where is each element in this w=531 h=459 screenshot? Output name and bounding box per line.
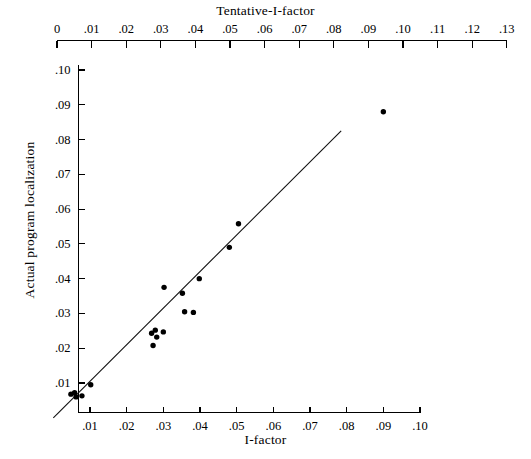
data-point bbox=[180, 291, 185, 296]
data-point bbox=[150, 343, 155, 348]
data-point bbox=[154, 334, 159, 339]
data-point bbox=[191, 310, 196, 315]
scatter-plot-figure: Tentative-I-factor I-factor Actual progr… bbox=[0, 0, 531, 459]
data-point bbox=[79, 393, 84, 398]
x-axis bbox=[79, 407, 421, 413]
data-point bbox=[161, 329, 166, 334]
plot-canvas bbox=[0, 0, 531, 459]
top-axis bbox=[57, 41, 507, 48]
data-point bbox=[161, 285, 166, 290]
data-point bbox=[182, 309, 187, 314]
data-point bbox=[153, 327, 158, 332]
data-point bbox=[227, 245, 232, 250]
data-point bbox=[73, 394, 78, 399]
data-point bbox=[236, 221, 241, 226]
data-point bbox=[197, 276, 202, 281]
regression-line bbox=[53, 131, 341, 418]
data-point bbox=[88, 382, 93, 387]
data-point bbox=[381, 109, 386, 114]
y-axis bbox=[79, 65, 85, 413]
fit-line-segment bbox=[53, 131, 341, 418]
